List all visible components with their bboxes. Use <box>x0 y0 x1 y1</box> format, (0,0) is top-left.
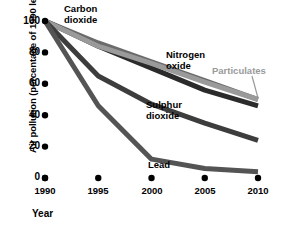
y-tick-60: 60 <box>16 77 40 88</box>
y-tick-dot <box>42 112 48 118</box>
y-tick-dot <box>42 18 48 24</box>
series-lines-group <box>45 21 258 172</box>
y-tick-20: 20 <box>16 140 40 151</box>
x-tick-2010: 2010 <box>238 185 278 196</box>
y-tick-80: 80 <box>16 46 40 57</box>
series-label-sulphur-dioxide: Sulphur dioxide <box>146 100 182 121</box>
series-label-carbon-dioxide: Carbon dioxide <box>64 4 97 25</box>
x-tick-2000: 2000 <box>132 185 172 196</box>
series-label-nitrogen-oxide: Nitrogen oxide <box>166 50 205 71</box>
x-tick-2005: 2005 <box>185 185 225 196</box>
x-tick-1995: 1995 <box>78 185 118 196</box>
x-tick-dot <box>148 175 154 181</box>
series-line-sulphur-dioxide <box>45 21 258 140</box>
particulates-leader-line <box>252 76 258 98</box>
y-tick-40: 40 <box>16 109 40 120</box>
x-tick-1990: 1990 <box>25 185 65 196</box>
series-label-lead: Lead <box>148 160 170 171</box>
y-tick-dot <box>42 49 48 55</box>
x-tick-dot <box>42 175 48 181</box>
y-tick-100: 100 <box>16 15 40 26</box>
x-tick-dot <box>95 175 101 181</box>
y-tick-dot <box>42 143 48 149</box>
y-tick-0: 0 <box>16 171 40 182</box>
x-tick-dot <box>202 175 208 181</box>
chart-plot-area <box>0 0 286 232</box>
x-tick-dot <box>255 175 261 181</box>
air-pollution-line-chart: Air pollution (percentage of 1990 level)… <box>0 0 286 232</box>
y-tick-dot <box>42 81 48 87</box>
x-axis-title: Year <box>32 208 53 219</box>
series-label-particulates: Particulates <box>212 66 266 77</box>
